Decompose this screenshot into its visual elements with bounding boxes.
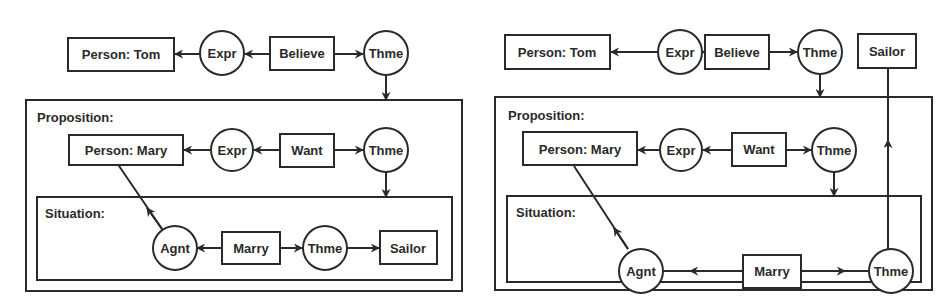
coref-arrow-agnt-to-mary (614, 228, 628, 249)
relation-thme-sit-label: Thme (308, 241, 343, 256)
proposition-label: Proposition: (37, 110, 114, 125)
concept-want-label: Want (291, 143, 323, 158)
concept-person-tom-label: Person: Tom (518, 45, 597, 60)
concept-person-mary-label: Person: Mary (539, 142, 622, 157)
concept-sailor-label: Sailor (869, 44, 905, 59)
concept-believe-label: Believe (279, 46, 325, 61)
relation-thme-sit-label: Thme (874, 264, 909, 279)
concept-want-label: Want (743, 142, 775, 157)
relation-agnt-label: Agnt (160, 241, 190, 256)
left-diagram: Proposition: Situation: Person: Tom Expr… (26, 31, 462, 291)
relation-thme-label: Thme (803, 45, 838, 60)
concept-believe-label: Believe (714, 45, 760, 60)
relation-agnt-label: Agnt (626, 264, 656, 279)
relation-expr-label: Expr (666, 45, 695, 60)
proposition-context (495, 97, 932, 290)
relation-thme-prop-label: Thme (817, 143, 852, 158)
relation-thme-prop-label: Thme (369, 143, 404, 158)
situation-label: Situation: (45, 206, 105, 221)
relation-expr-prop-label: Expr (667, 143, 696, 158)
relation-thme-label: Thme (369, 46, 404, 61)
concept-marry-label: Marry (754, 264, 790, 279)
coref-arrow-agnt-to-mary (147, 208, 162, 229)
relation-expr-label: Expr (208, 46, 237, 61)
concept-person-mary-label: Person: Mary (85, 143, 168, 158)
situation-label: Situation: (516, 205, 576, 220)
concept-person-tom-label: Person: Tom (82, 47, 161, 62)
proposition-label: Proposition: (508, 108, 585, 123)
concept-sailor-label: Sailor (390, 241, 426, 256)
concept-marry-label: Marry (233, 241, 269, 256)
right-diagram: Proposition: Situation: Person: Tom Expr… (495, 30, 932, 293)
relation-expr-prop-label: Expr (218, 143, 247, 158)
